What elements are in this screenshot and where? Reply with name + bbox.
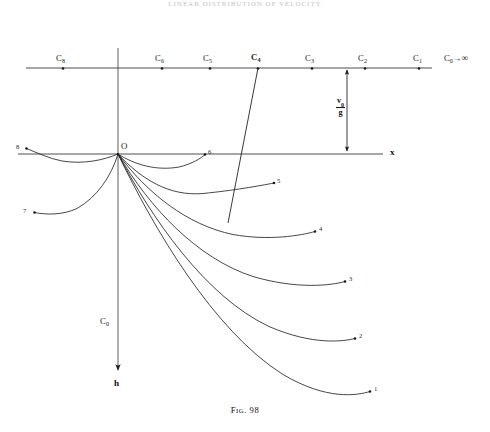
measure-label-v0-over-g: v0 g [336,97,345,117]
curve-label-5: 5 [277,178,280,185]
inclined-ray-from-c4 [228,68,258,223]
measure-numerator: v0 [336,97,345,107]
endpoint-dot-1 [369,390,372,393]
figure-98-diagram: LINEAR DISTRIBUTION OF VELOCITY [0,0,490,432]
label-c0-on-h-axis: C0 [100,317,109,326]
label-c6: C6 [155,54,164,63]
endpoint-dot-5 [273,182,276,185]
endpoint-dot-6 [204,153,207,156]
centre-dot-c8 [62,67,65,70]
curve-label-2: 2 [359,333,362,340]
measure-denominator: g [336,107,345,117]
curve-label-8: 8 [16,144,19,151]
label-c1: C1 [413,54,422,63]
endpoint-dot-3 [344,280,347,283]
figure-caption: FIG. 98 [0,405,490,415]
centre-dot-c3 [311,67,314,70]
endpoint-dot-4 [314,230,317,233]
centre-dot-c1 [418,67,421,70]
endpoint-dot-7 [33,211,36,214]
centre-dot-c6 [161,67,164,70]
plot-canvas [0,0,490,432]
label-c5: C5 [203,54,212,63]
curve-label-1: 1 [374,386,377,393]
origin-dot [117,153,119,155]
curve-8 [27,149,119,163]
curve-label-3: 3 [349,276,352,283]
curve-2 [118,154,355,341]
curve-6 [118,154,205,168]
curve-label-7: 7 [23,208,26,215]
curve-label-4: 4 [319,226,322,233]
origin-label: O [121,142,127,151]
curve-label-6: 6 [208,149,211,156]
endpoint-dot-8 [25,147,28,150]
h-axis-label: h [114,379,119,388]
label-c8: C8 [56,54,65,63]
label-c4: C4 [251,53,261,62]
label-c0-tends-infinity: C0→∞ [444,54,468,63]
centre-dot-c2 [364,67,367,70]
label-c2: C2 [358,54,367,63]
trajectory-curves [27,149,371,395]
curve-1 [118,154,370,395]
label-c3: C3 [305,54,314,63]
endpoint-dot-2 [354,337,357,340]
curve-7 [35,154,119,214]
curve-5 [118,154,274,194]
centre-dot-c5 [209,67,212,70]
x-axis-label: x [390,148,395,157]
curve-endpoint-dots [25,147,371,393]
